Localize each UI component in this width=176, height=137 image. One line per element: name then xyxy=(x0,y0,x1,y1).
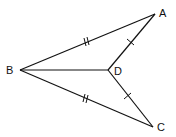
point-label-a: A xyxy=(159,8,166,19)
diagram-canvas xyxy=(0,0,176,137)
geometry-diagram: A B D C xyxy=(0,0,176,137)
point-label-d: D xyxy=(114,66,122,77)
segment-DA xyxy=(108,14,155,70)
segment-DC xyxy=(108,70,153,127)
point-label-c: C xyxy=(157,122,165,133)
point-label-b: B xyxy=(6,65,13,76)
segment-BC xyxy=(20,70,153,127)
double-tick-mark-BA xyxy=(84,37,89,46)
segment-BA xyxy=(20,14,155,70)
